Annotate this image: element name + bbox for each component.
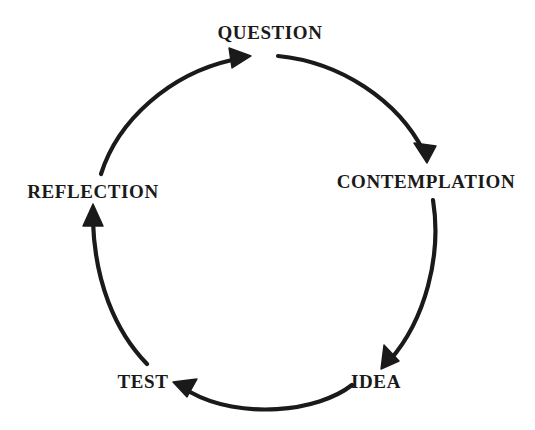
cycle-diagram-canvas: QUESTION CONTEMPLATION IDEA TEST REFLECT… — [0, 0, 535, 430]
arrow-contemplation-to-idea-head — [381, 345, 399, 369]
node-label-question: QUESTION — [217, 23, 322, 42]
arrow-test-to-reflection-head — [83, 204, 103, 226]
arrow-reflection-to-question — [101, 48, 251, 174]
node-label-idea: IDEA — [351, 372, 401, 391]
cycle-arrows-svg — [0, 0, 535, 430]
arrow-reflection-to-question-head — [229, 48, 251, 68]
arrow-question-to-contemplation — [278, 56, 436, 163]
arrow-idea-to-test — [173, 379, 352, 410]
arrow-reflection-to-question-path — [101, 60, 232, 174]
arrow-question-to-contemplation-path — [278, 56, 424, 152]
arrow-test-to-reflection — [83, 204, 147, 364]
node-label-contemplation: CONTEMPLATION — [337, 172, 515, 191]
node-label-test: TEST — [118, 372, 169, 391]
node-label-reflection: REFLECTION — [27, 182, 159, 201]
arrow-test-to-reflection-path — [93, 222, 147, 364]
arrow-contemplation-to-idea — [381, 200, 435, 369]
arrow-idea-to-test-path — [190, 385, 352, 410]
arrow-contemplation-to-idea-path — [390, 200, 435, 360]
arrow-question-to-contemplation-head — [414, 143, 436, 163]
